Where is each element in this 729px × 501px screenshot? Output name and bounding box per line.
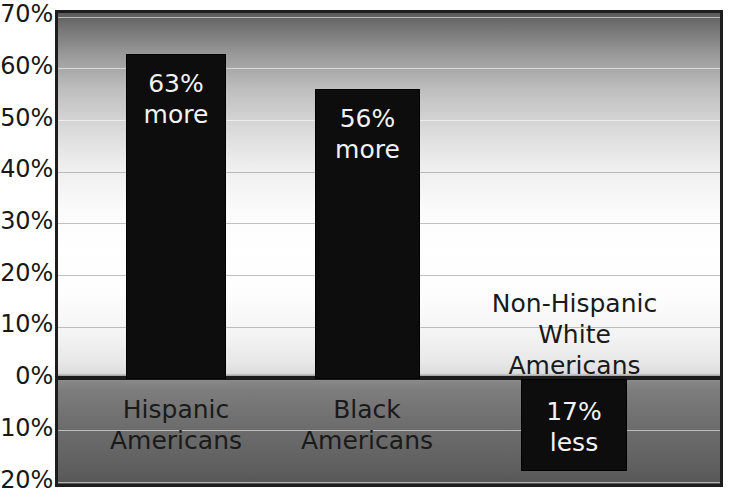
category-label-black-americans: Black Americans <box>287 394 447 456</box>
y-axis-tick-0: 0% <box>0 364 53 388</box>
y-axis-tick-neg20: -20% <box>0 468 53 492</box>
y-axis-tick-70: 70% <box>0 2 53 26</box>
plot-surface: 63% more 56% more 17% less Hispanic Amer… <box>58 13 720 484</box>
y-axis-tick-20: 20% <box>0 261 53 285</box>
plot-area: 63% more 56% more 17% less Hispanic Amer… <box>55 10 723 487</box>
y-axis-tick-40: 40% <box>0 157 53 181</box>
bar-label-black-americans: 56% more <box>315 103 420 165</box>
chart-root: 70% 60% 50% 40% 30% 20% 10% 0% -10% -20%… <box>0 0 729 501</box>
bar-label-non-hispanic-white-americans: 17% less <box>521 396 627 458</box>
y-axis-tick-10: 10% <box>0 312 53 336</box>
bar-non-hispanic-white-americans[interactable]: 17% less <box>521 379 627 471</box>
gridline-70 <box>58 17 720 18</box>
bar-label-hispanic-americans: 63% more <box>126 68 226 130</box>
bar-hispanic-americans[interactable]: 63% more <box>126 54 226 379</box>
y-axis-tick-30: 30% <box>0 209 53 233</box>
category-label-hispanic-americans: Hispanic Americans <box>96 394 256 456</box>
y-axis-tick-50: 50% <box>0 106 53 130</box>
y-axis-tick-neg10: -10% <box>0 416 53 440</box>
y-axis-tick-60: 60% <box>0 54 53 78</box>
bar-black-americans[interactable]: 56% more <box>315 89 420 379</box>
category-label-non-hispanic-white-americans: Non-Hispanic White Americans <box>482 288 667 381</box>
gridline-neg20 <box>58 482 720 483</box>
